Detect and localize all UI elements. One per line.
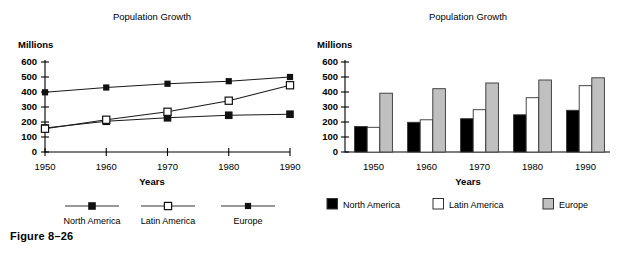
y-tick-label: 200 — [322, 116, 338, 127]
line-chart-title: Population Growth — [113, 11, 191, 22]
bar-latin-america-1950 — [367, 127, 380, 152]
y-tick-label: 0 — [333, 146, 338, 157]
bar-north-america-1950 — [355, 127, 368, 153]
bar-north-america-1990 — [567, 110, 580, 152]
bar-chart-y-axis-label: Millions — [317, 39, 352, 50]
bar-chart-legend: North AmericaLatin AmericaEurope — [327, 199, 588, 211]
line-chart-legend: North AmericaLatin AmericaEurope — [63, 202, 275, 226]
series-europe — [42, 74, 293, 95]
y-tick-label: 300 — [322, 101, 338, 112]
legend-item-latin-america[interactable]: Latin America — [433, 199, 504, 211]
x-tick-label: 1950 — [363, 161, 384, 172]
bar-chart-x-axis-label: Years — [455, 176, 480, 187]
bar-chart-svg: Population Growth Millions 0100200300400… — [305, 0, 621, 253]
legend-label: Latin America — [449, 200, 504, 210]
marker-filled-square — [225, 111, 233, 119]
bar-europe-1970 — [486, 83, 499, 152]
bar-europe-1960 — [433, 89, 446, 152]
x-tick-label: 1970 — [157, 161, 178, 172]
bar-latin-america-1960 — [420, 120, 433, 152]
y-tick-label: 100 — [21, 131, 37, 142]
y-tick-label: 600 — [322, 56, 338, 67]
bar-latin-america-1970 — [473, 110, 486, 152]
legend-item-europe[interactable]: Europe — [221, 203, 275, 226]
y-tick-label: 300 — [21, 101, 37, 112]
legend-label: Europe — [559, 200, 588, 210]
y-tick-label: 600 — [21, 56, 37, 67]
legend-label: Latin America — [141, 216, 196, 226]
bar-chart-x-ticks: 19501960197019801990 — [363, 161, 596, 172]
legend-item-north-america[interactable]: North America — [327, 199, 400, 211]
marker-open-square — [286, 82, 293, 89]
bar-north-america-1970 — [461, 119, 474, 152]
marker-open-square — [164, 202, 171, 209]
series-line-path — [45, 85, 290, 129]
y-tick-label: 500 — [21, 71, 37, 82]
bar-chart-bars-group — [355, 78, 605, 152]
marker-open-square — [225, 97, 232, 104]
marker-filled-square-small — [42, 89, 48, 95]
bar-chart-panel: Population Growth Millions 0100200300400… — [305, 0, 621, 253]
y-tick-label: 0 — [32, 146, 37, 157]
marker-filled-square-small — [103, 84, 109, 90]
legend-label: North America — [343, 200, 400, 210]
marker-filled-square-small — [287, 74, 293, 80]
legend-swatch — [433, 199, 444, 210]
x-tick-label: 1950 — [34, 161, 55, 172]
y-tick-label: 500 — [322, 71, 338, 82]
x-tick-label: 1970 — [469, 161, 490, 172]
legend-label: North America — [63, 216, 120, 226]
figure-caption: Figure 8–26 — [10, 230, 73, 242]
marker-filled-square-small — [226, 78, 232, 84]
marker-open-square — [41, 125, 48, 132]
y-tick-label: 400 — [21, 86, 37, 97]
y-tick-label: 100 — [322, 131, 338, 142]
marker-open-square — [164, 108, 171, 115]
bar-chart-title: Population Growth — [429, 11, 507, 22]
bar-latin-america-1990 — [579, 86, 592, 152]
marker-filled-square-small — [245, 203, 251, 209]
legend-item-north-america[interactable]: North America — [63, 202, 120, 226]
bar-north-america-1980 — [514, 115, 527, 152]
x-tick-label: 1960 — [96, 161, 117, 172]
y-tick-label: 200 — [21, 116, 37, 127]
line-chart-series-group — [41, 74, 294, 132]
x-tick-label: 1980 — [218, 161, 239, 172]
bar-latin-america-1980 — [526, 98, 539, 152]
marker-open-square — [103, 116, 110, 123]
marker-filled-square-small — [164, 81, 170, 87]
x-tick-label: 1990 — [575, 161, 596, 172]
line-chart-x-axis-label: Years — [139, 176, 164, 187]
x-tick-label: 1990 — [279, 161, 300, 172]
bar-north-america-1960 — [408, 122, 421, 152]
line-chart-axes — [45, 60, 290, 152]
bar-europe-1950 — [380, 93, 393, 152]
legend-label: Europe — [233, 216, 262, 226]
legend-swatch — [327, 199, 338, 210]
marker-filled-square — [88, 202, 96, 210]
line-chart-svg: Population Growth Millions 0100200300400… — [0, 0, 305, 253]
line-chart-panel: Population Growth Millions 0100200300400… — [0, 0, 305, 253]
marker-filled-square — [286, 110, 294, 118]
figure-8-26: Population Growth Millions 0100200300400… — [0, 0, 621, 253]
legend-swatch — [543, 199, 554, 210]
legend-item-europe[interactable]: Europe — [543, 199, 588, 211]
line-chart-y-axis-label: Millions — [18, 39, 53, 50]
legend-item-latin-america[interactable]: Latin America — [141, 202, 196, 226]
x-tick-label: 1960 — [416, 161, 437, 172]
x-tick-label: 1980 — [522, 161, 543, 172]
bar-europe-1990 — [592, 78, 605, 152]
y-tick-label: 400 — [322, 86, 338, 97]
bar-europe-1980 — [539, 80, 552, 152]
